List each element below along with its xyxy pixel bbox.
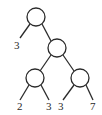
tree-edge [42, 24, 51, 41]
leaf-label-bottom-right-left: 3 [58, 100, 64, 112]
tree-edge [20, 24, 30, 38]
tree-edge [41, 85, 49, 100]
leaf-label-root-left: 3 [14, 39, 20, 51]
leaf-label-bottom-left-right: 3 [46, 100, 52, 112]
tree-edge [63, 55, 74, 71]
tree-node-right-internal [48, 39, 66, 57]
leaf-label-bottom-left-left: 2 [17, 100, 23, 112]
tree-edge [40, 55, 51, 71]
tree-edge [86, 85, 93, 100]
tree-nodes [26, 8, 89, 87]
tree-node-bottom-right-internal [71, 69, 89, 87]
tree-node-root [27, 8, 45, 26]
tree-node-bottom-left-internal [26, 69, 44, 87]
tree-edge [63, 85, 74, 100]
tree-edge [20, 85, 29, 100]
tree-edges [20, 24, 93, 100]
leaf-label-bottom-right-right: 7 [90, 100, 96, 112]
binary-tree-diagram: 3 2 3 3 7 [0, 0, 102, 115]
